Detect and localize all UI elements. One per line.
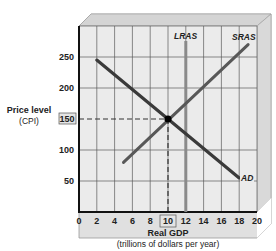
svg-text:50: 50 <box>64 176 74 186</box>
svg-text:20: 20 <box>252 216 262 226</box>
sras-label: SRAS <box>232 32 256 42</box>
svg-text:200: 200 <box>59 83 74 93</box>
ad-as-chart: LRAS SRAS AD 250 200 100 50 150 0 2 4 6 … <box>0 0 276 251</box>
svg-text:0: 0 <box>76 216 81 226</box>
svg-text:16: 16 <box>216 216 226 226</box>
equilibrium-point <box>164 115 171 122</box>
frame-top-bevel <box>79 14 271 26</box>
x-axis-title: Real GDP <box>147 228 188 238</box>
x-tick-10: 10 <box>163 216 173 226</box>
svg-text:12: 12 <box>181 216 191 226</box>
x-axis-subtitle: (trillions of dollars per year) <box>117 239 220 249</box>
svg-text:4: 4 <box>112 216 117 226</box>
svg-text:6: 6 <box>130 216 135 226</box>
svg-text:250: 250 <box>59 52 74 62</box>
svg-text:18: 18 <box>234 216 244 226</box>
svg-text:2: 2 <box>94 216 99 226</box>
svg-text:14: 14 <box>199 216 209 226</box>
frame-right-bevel <box>257 14 271 212</box>
svg-text:8: 8 <box>148 216 153 226</box>
y-tick-150: 150 <box>59 114 74 124</box>
lras-label: LRAS <box>174 31 197 41</box>
svg-text:100: 100 <box>59 145 74 155</box>
ad-label: AD <box>240 173 253 183</box>
y-axis-title: Price level <box>7 105 52 115</box>
y-axis-subtitle: (CPI) <box>19 116 39 126</box>
